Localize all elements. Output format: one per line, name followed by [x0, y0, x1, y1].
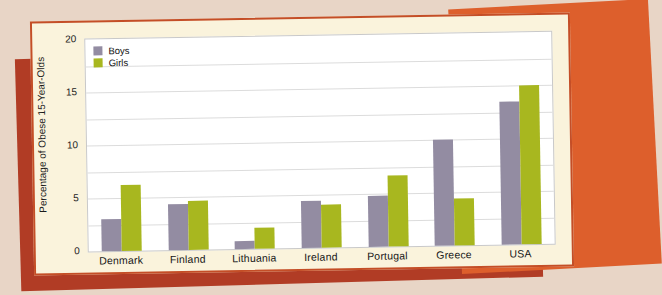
y-tick-label-0: 0: [54, 245, 80, 256]
bar-girls-greece: [454, 199, 475, 246]
girls-color-swatch: [94, 58, 103, 67]
x-label-portugal: Portugal: [354, 249, 421, 262]
y-tick-label-15: 15: [51, 86, 77, 97]
y-tick-label-5: 5: [53, 192, 79, 203]
bar-group-denmark: [85, 38, 155, 251]
bar-boys-lithuania: [235, 240, 255, 249]
legend-label-girls: Girls: [109, 56, 129, 67]
bar-group-portugal: [352, 34, 422, 247]
bar-girls-usa: [519, 85, 542, 244]
bar-boys-ireland: [301, 201, 322, 248]
x-label-finland: Finland: [154, 252, 221, 265]
legend-entry-boys: Boys: [93, 44, 129, 57]
x-label-ireland: Ireland: [288, 250, 355, 263]
bar-group-ireland: [285, 35, 355, 248]
bar-girls-portugal: [387, 175, 408, 246]
bar-group-finland: [152, 37, 222, 250]
legend-label-boys: Boys: [108, 44, 129, 55]
y-axis-title: Percentage of Obese 15-Year-Olds: [35, 45, 49, 225]
boys-color-swatch: [93, 46, 102, 55]
bar-boys-denmark: [102, 219, 123, 251]
x-label-greece: Greece: [421, 248, 488, 261]
bar-group-usa: [485, 32, 555, 245]
plot-area: Boys Girls: [84, 31, 555, 253]
y-tick-label-20: 20: [50, 33, 76, 44]
bar-boys-portugal: [367, 196, 388, 247]
bar-groups: [85, 32, 554, 252]
y-tick-label-10: 10: [52, 139, 78, 150]
bar-girls-finland: [188, 201, 209, 250]
bar-group-lithuania: [218, 36, 288, 249]
x-label-usa: USA: [487, 247, 554, 260]
legend: Boys Girls: [93, 44, 130, 69]
x-label-denmark: Denmark: [88, 253, 155, 266]
bar-boys-usa: [499, 101, 521, 244]
x-label-lithuania: Lithuania: [221, 251, 288, 264]
bar-girls-denmark: [121, 185, 142, 251]
bar-boys-greece: [433, 139, 455, 245]
bar-boys-finland: [168, 204, 189, 250]
chart-card: Percentage of Obese 15-Year-Olds 0510152…: [30, 13, 574, 276]
legend-entry-girls: Girls: [94, 56, 130, 69]
bar-group-greece: [418, 33, 488, 246]
bar-girls-ireland: [321, 204, 342, 248]
bar-girls-lithuania: [255, 227, 275, 249]
y-axis-tick-labels: 05101520: [54, 39, 84, 251]
